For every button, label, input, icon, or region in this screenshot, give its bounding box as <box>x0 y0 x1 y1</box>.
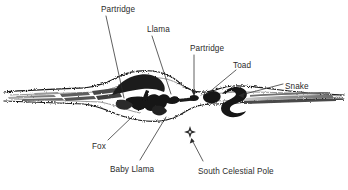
label-baby-llama: Baby Llama <box>110 166 154 174</box>
leader-baby-llama <box>140 117 166 160</box>
label-partridge-center: Partridge <box>190 45 224 53</box>
leader-fox <box>108 116 133 140</box>
label-llama: Llama <box>147 26 170 34</box>
leader-pole <box>192 140 203 161</box>
partridge-center-figure <box>190 95 199 101</box>
right-dark-cloud-mass <box>203 87 336 117</box>
label-south-celestial-pole: South Celestial Pole <box>198 168 274 176</box>
south-celestial-pole-marker <box>184 126 196 138</box>
label-toad: Toad <box>233 62 251 70</box>
left-dark-cloud-mass <box>112 74 198 115</box>
diagram-canvas <box>0 0 348 190</box>
arrowhead-pole <box>190 138 195 143</box>
partridge-left-figure <box>112 74 165 95</box>
milky-way-dark-constellation-diagram: Partridge Llama Partridge Toad Snake Fox… <box>0 0 348 190</box>
label-partridge-left: Partridge <box>101 6 135 14</box>
toad-figure <box>203 91 221 103</box>
label-snake: Snake <box>285 83 309 91</box>
label-fox: Fox <box>92 143 106 151</box>
leader-partridge-left <box>106 16 124 98</box>
